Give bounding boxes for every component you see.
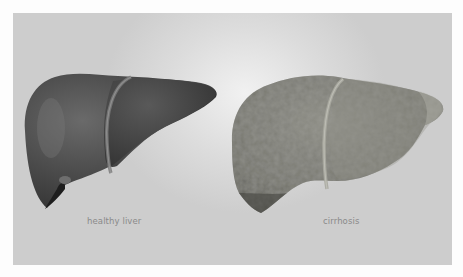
cirrhosis-caption: cirrhosis — [323, 216, 359, 226]
cirrhotic-liver-shape — [232, 75, 443, 213]
illustration-panel: healthy liver cirrhosis — [13, 13, 452, 265]
liver-comparison-illustration — [13, 13, 452, 265]
healthy-liver-caption: healthy liver — [87, 216, 141, 226]
image-canvas: healthy liver cirrhosis — [0, 0, 463, 277]
healthy-liver-shape — [25, 74, 217, 209]
